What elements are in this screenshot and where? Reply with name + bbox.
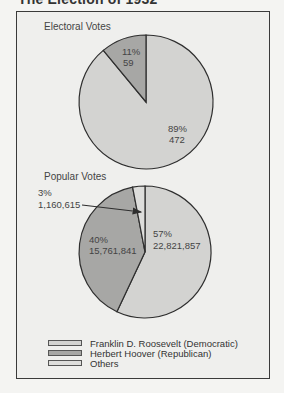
legend: Franklin D. Roosevelt (Democratic) Herbe…	[48, 338, 238, 368]
popular-roosevelt-pct: 57%	[153, 228, 173, 239]
electoral-roosevelt-pct: 89%	[168, 123, 188, 134]
legend-swatch-hoover	[48, 350, 82, 356]
legend-item-others: Others	[48, 358, 238, 368]
legend-swatch-roosevelt	[48, 340, 82, 346]
legend-swatch-others	[48, 360, 82, 366]
pie-charts: 11% 59 89% 472 3% 1,160,615 40% 15,761,8…	[0, 0, 284, 393]
popular-hoover-value: 15,761,841	[89, 245, 137, 256]
electoral-pie: 11% 59 89% 472	[79, 35, 213, 169]
legend-item-hoover: Herbert Hoover (Republican)	[48, 348, 238, 358]
popular-hoover-pct: 40%	[89, 234, 109, 245]
popular-roosevelt-value: 22,821,857	[153, 240, 201, 251]
legend-label-others: Others	[90, 358, 119, 369]
popular-others-value: 1,160,615	[38, 199, 80, 210]
electoral-hoover-value: 59	[123, 57, 134, 68]
legend-item-roosevelt: Franklin D. Roosevelt (Democratic)	[48, 338, 238, 348]
popular-pie: 3% 1,160,615 40% 15,761,841 57% 22,821,8…	[38, 186, 211, 318]
electoral-hoover-pct: 11%	[122, 46, 141, 57]
electoral-roosevelt-value: 472	[169, 134, 185, 145]
popular-others-pct: 3%	[38, 187, 52, 198]
